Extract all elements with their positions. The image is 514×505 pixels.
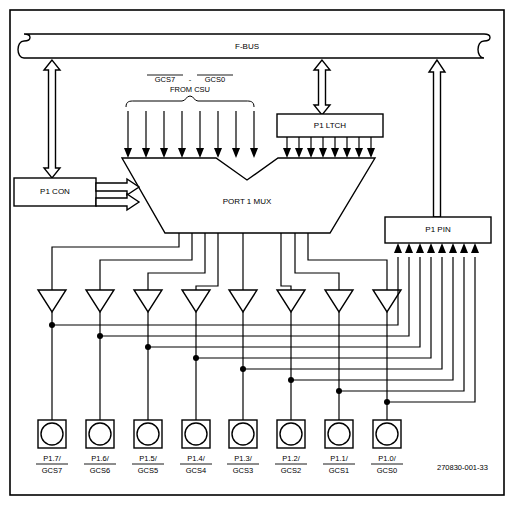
arrow-p1pin-fbus [429,60,445,217]
figure-reference-number: 270830-001-33 [437,463,488,472]
pad-label-top: P1.4/ [187,454,205,463]
pad-label-top: P1.0/ [378,454,396,463]
pad-label-bottom: GCS7 [42,466,62,475]
junction-dot [384,399,390,405]
arrow-fbus-p1con [44,60,60,178]
p1-mux-block[interactable]: PORT 1 MUX [122,158,375,233]
p1-con-block[interactable]: P1 CON [14,178,96,206]
pin-pads: P1.7/ GCS7 P1.6/ GCS6 P1.5/ GCS5 P1.4/ G… [36,420,403,475]
junction-dot [145,344,151,350]
pad-label-bottom: GCS1 [329,466,349,475]
f-bus-label: F-BUS [235,42,259,51]
junction-dot [288,377,294,383]
pad-label-bottom: GCS2 [281,466,301,475]
pad-label-bottom: GCS6 [90,466,110,475]
mux-to-buffer-wires [52,233,387,290]
pad-p10: P1.0/ GCS0 [371,420,403,475]
buffer-p16 [86,290,114,312]
figure-canvas: F-BUS GCS7 - GCS0 FROM CSU [0,0,514,505]
pad-label-top: P1.2/ [282,454,300,463]
arrow-p1con-mux-upper [96,179,139,195]
junction-dot [240,366,246,372]
buffer-p11 [325,290,353,312]
p1-ltch-label: P1 LTCH [314,121,347,130]
buffer-p14 [182,290,210,312]
buffer-p17 [38,290,66,312]
pin-feedback-wires [49,243,479,405]
output-buffers [38,290,401,312]
pad-p15: P1.5/ GCS5 [132,420,164,475]
pad-label-bottom: GCS4 [186,466,206,475]
pad-p12: P1.2/ GCS2 [275,420,307,475]
p1-pin-label: P1 PIN [425,225,451,234]
arrow-fbus-p1ltch [314,60,330,115]
pad-p11: P1.1/ GCS1 [323,420,355,475]
junction-dot [193,355,199,361]
gcs-source-label: FROM CSU [170,85,210,94]
buffer-p12 [277,290,305,312]
pad-label-top: P1.6/ [91,454,109,463]
buffer-p13 [229,290,257,312]
pad-label-bottom: GCS3 [233,466,253,475]
pad-label-top: P1.7/ [43,454,61,463]
p1-mux-label: PORT 1 MUX [223,197,272,206]
p1-con-label: P1 CON [40,187,70,196]
gcs-range-separator: - [189,75,192,84]
p1-ltch-block[interactable]: P1 LTCH [277,114,383,137]
gcs-range-part1: GCS7 [155,75,175,84]
pad-label-top: P1.5/ [139,454,157,463]
pad-p13: P1.3/ GCS3 [227,420,259,475]
f-bus: F-BUS [18,34,490,58]
junction-dot [49,322,55,328]
junction-dot [97,333,103,339]
buffer-to-pad-wires [52,312,387,420]
pad-label-top: P1.1/ [330,454,348,463]
pad-label-bottom: GCS0 [377,466,397,475]
pad-label-bottom: GCS5 [138,466,158,475]
junction-dot [336,388,342,394]
arrow-p1con-mux-lower [96,194,139,210]
p1-pin-block[interactable]: P1 PIN [385,217,491,243]
gcs-range-part2: GCS0 [205,75,225,84]
control-source-label: GCS7 - GCS0 FROM CSU [126,75,254,107]
buffer-p10 [373,290,401,312]
pad-p16: P1.6/ GCS6 [84,420,116,475]
pad-p14: P1.4/ GCS4 [180,420,212,475]
pad-p17: P1.7/ GCS7 [36,420,68,475]
pad-label-top: P1.3/ [234,454,252,463]
latch-output-arrows [283,137,375,158]
gcs-input-arrows [124,111,258,158]
buffer-p15 [134,290,162,312]
